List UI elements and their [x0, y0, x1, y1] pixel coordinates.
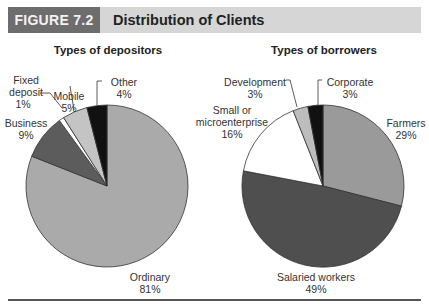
pie-charts — [0, 0, 429, 305]
label-other: Other4% — [106, 76, 142, 100]
bottom-rule — [8, 299, 421, 301]
label-ordinary: Ordinary81% — [120, 271, 180, 295]
label-small-microenterprise: Small ormicroenterprise16% — [189, 104, 275, 140]
label-development: Development3% — [222, 76, 288, 100]
label-mobile: Mobile5% — [44, 90, 94, 114]
label-fixed-deposit: Fixeddeposit1% — [6, 74, 46, 110]
label-salaried-workers: Salaried workers49% — [266, 271, 366, 295]
label-business: Business9% — [4, 117, 48, 141]
label-corporate: Corporate3% — [322, 76, 378, 100]
depositors-pie — [26, 105, 188, 267]
label-farmers: Farmers29% — [384, 117, 428, 141]
